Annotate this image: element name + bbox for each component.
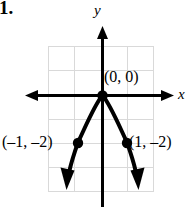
point-label-vertex: (0, 0): [104, 69, 139, 85]
curve-right-arrow-icon: [131, 168, 145, 191]
y-axis-label: y: [94, 3, 101, 18]
y-axis: [97, 26, 108, 207]
point-label-left: (–1, –2): [2, 134, 53, 150]
figure-root: 1.: [0, 0, 195, 210]
point-marker-vertex: [97, 90, 107, 100]
curve-left-arrow-icon: [61, 168, 75, 191]
x-axis-left-arrow-icon: [25, 90, 38, 101]
point-marker-left: [73, 138, 83, 148]
x-axis-right-arrow-icon: [161, 90, 174, 101]
point-label-right: (1, –2): [129, 134, 172, 150]
coordinate-graph: [0, 0, 195, 210]
y-axis-up-arrow-icon: [97, 26, 108, 39]
x-axis-label: x: [178, 87, 185, 102]
